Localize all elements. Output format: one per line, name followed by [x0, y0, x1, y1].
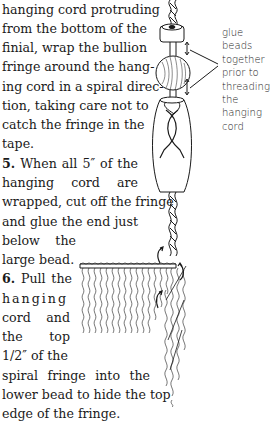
glue-arrows: [185, 42, 218, 95]
bullion-fringe: [80, 263, 176, 333]
spiral-wrapped-cord: [165, 266, 186, 407]
annotation-line: glue beads: [222, 26, 274, 53]
annotation-line: cord: [222, 120, 274, 133]
annotation-line: together: [222, 53, 274, 66]
annotation-line: the hanging: [222, 93, 274, 120]
large-bead: [153, 97, 192, 192]
small-bead: [160, 24, 184, 42]
wrap-arrow: [158, 247, 163, 263]
annotation-line: threading: [222, 80, 274, 93]
hanging-cord-top: [169, 0, 177, 26]
annotation-line: prior to: [222, 66, 274, 79]
round-bead: [156, 56, 190, 90]
hanging-cord-bottom: [169, 192, 177, 256]
glue-beads-annotation: glue beads together prior to threading t…: [222, 26, 274, 133]
